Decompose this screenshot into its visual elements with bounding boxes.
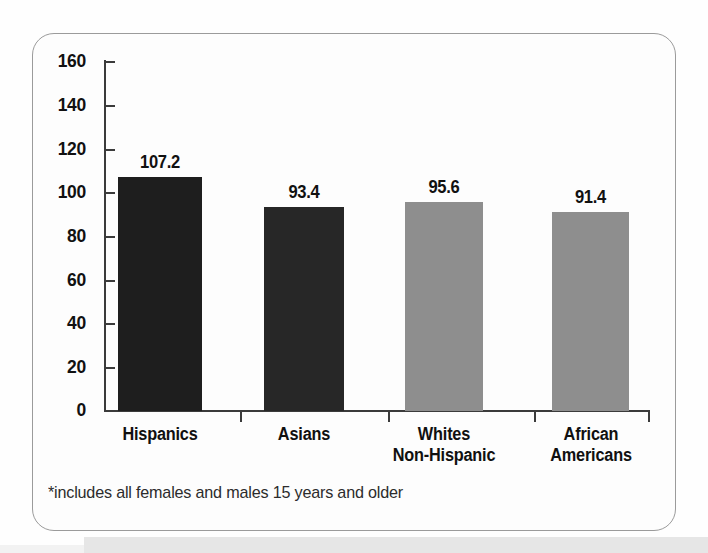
x-axis-tick xyxy=(534,411,536,422)
y-axis-tick-label: 160 xyxy=(44,50,86,72)
category-label-whites-non-hispanic: Whites Non-Hispanic xyxy=(383,424,506,466)
y-axis-tick-label: 120 xyxy=(44,138,86,160)
y-axis-tick-label: 20 xyxy=(44,356,86,378)
category-label-line: Hispanics xyxy=(104,424,216,445)
bar-asians xyxy=(264,207,344,411)
y-axis-tick xyxy=(104,367,115,369)
y-axis-tick xyxy=(104,280,115,282)
x-axis-tick xyxy=(388,411,390,422)
x-axis-tick xyxy=(240,411,242,422)
y-axis-tick xyxy=(104,149,115,151)
y-axis-tick-label: 80 xyxy=(44,225,86,247)
category-label-asians: Asians xyxy=(250,424,358,445)
category-label-line: Asians xyxy=(250,424,358,445)
bar-value-african-americans: 91.4 xyxy=(555,187,626,208)
category-label-line: Americans xyxy=(531,445,650,466)
y-axis-tick-label: 140 xyxy=(44,94,86,116)
bar-african-americans xyxy=(552,212,629,411)
bar-value-hispanics: 107.2 xyxy=(121,152,198,173)
chart-footnote: *includes all females and males 15 years… xyxy=(48,483,403,503)
y-axis-tick-label: 40 xyxy=(44,312,86,334)
figure-root: 160 140 120 100 80 60 40 20 0 107.2 93.4… xyxy=(0,0,708,553)
category-label-line: Whites xyxy=(383,424,506,445)
y-axis-tick xyxy=(104,61,115,63)
category-label-line: African xyxy=(531,424,650,445)
y-axis-tick xyxy=(104,192,115,194)
bar-value-asians: 93.4 xyxy=(267,182,341,203)
y-axis-tick xyxy=(104,105,115,107)
bar-value-whites-non-hispanic: 95.6 xyxy=(408,177,480,198)
bar-chart-plot: 160 140 120 100 80 60 40 20 0 107.2 93.4… xyxy=(0,0,708,553)
y-axis-tick xyxy=(104,236,115,238)
category-label-african-americans: African Americans xyxy=(531,424,650,466)
bar-whites-non-hispanic xyxy=(405,202,483,411)
y-axis-tick-label: 0 xyxy=(44,399,86,421)
x-axis-tick xyxy=(648,411,650,422)
category-label-hispanics: Hispanics xyxy=(104,424,216,445)
y-axis-tick-label: 100 xyxy=(44,181,86,203)
bar-hispanics xyxy=(118,177,202,411)
category-label-line: Non-Hispanic xyxy=(383,445,506,466)
y-axis-tick xyxy=(104,323,115,325)
y-axis-tick-label: 60 xyxy=(44,269,86,291)
